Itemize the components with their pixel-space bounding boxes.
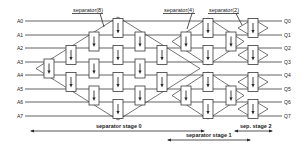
input-label-a6: A6 (17, 99, 23, 105)
output-label-q5: Q5 (284, 86, 291, 92)
separator-box (157, 46, 167, 65)
separator-box (203, 73, 213, 92)
svg-text:separator stage 1: separator stage 1 (186, 132, 232, 138)
stage-0-boxes (44, 19, 167, 119)
input-label-a0: A0 (17, 18, 23, 24)
output-label-q0: Q0 (284, 18, 291, 24)
stage-2-span: sep. stage 2 (234, 123, 273, 133)
input-label-a2: A2 (17, 45, 23, 51)
separator-box (113, 19, 123, 38)
input-label-a7: A7 (17, 113, 23, 119)
separator-box (89, 32, 99, 51)
output-label-q6: Q6 (284, 99, 291, 105)
separator-box (248, 46, 258, 65)
separator-box (248, 100, 258, 119)
separator-box (135, 59, 145, 78)
output-label-q2: Q2 (284, 45, 291, 51)
separator-box (113, 100, 123, 119)
separator-box (226, 86, 236, 105)
svg-text:sep. stage 2: sep. stage 2 (240, 123, 272, 129)
wires (25, 21, 282, 116)
separator-box (248, 19, 258, 38)
separator-box (203, 19, 213, 38)
separator-8-label: separator(8) (72, 7, 104, 27)
output-label-q1: Q1 (284, 32, 291, 38)
separator-box (157, 73, 167, 92)
separator-box (89, 59, 99, 78)
svg-text:separator(4): separator(4) (164, 7, 194, 13)
separator-box (113, 46, 123, 65)
separator-box (248, 73, 258, 92)
separator-box (66, 73, 76, 92)
separator-box (89, 86, 99, 105)
input-label-a3: A3 (17, 59, 23, 65)
separator-box (135, 86, 145, 105)
output-label-q7: Q7 (284, 113, 291, 119)
input-label-a1: A1 (17, 32, 23, 38)
separator-box (181, 32, 191, 51)
input-label-a5: A5 (17, 86, 23, 92)
separator-box (66, 46, 76, 65)
separator-box (181, 86, 191, 105)
stage-1-span: separator stage 1 (167, 132, 251, 142)
output-label-q4: Q4 (284, 72, 291, 78)
input-label-a4: A4 (17, 72, 23, 78)
stage-0-span: separator stage 0 (30, 123, 205, 133)
separator-box (113, 73, 123, 92)
svg-text:separator stage 0: separator stage 0 (96, 123, 142, 129)
separator-box (44, 59, 54, 78)
separator-4-label: separator(4) (163, 7, 195, 29)
svg-text:separator(2): separator(2) (209, 7, 239, 13)
separator-box (135, 32, 145, 51)
stage-1-boxes (181, 19, 236, 119)
stage-2-boxes (248, 19, 258, 119)
output-label-q3: Q3 (284, 59, 291, 65)
svg-text:separator(8): separator(8) (73, 7, 103, 13)
output-labels: Q0 Q1 Q2 Q3 Q4 Q5 Q6 Q7 (284, 18, 291, 119)
separator-box (203, 100, 213, 119)
separator-box (226, 32, 236, 51)
input-labels: A0 A1 A2 A3 A4 A5 A6 A7 (17, 18, 23, 119)
separator-box (203, 46, 213, 65)
separator-network-diagram: A0 A1 A2 A3 A4 A5 A6 A7 Q0 Q1 Q2 Q3 Q4 Q… (0, 0, 305, 150)
